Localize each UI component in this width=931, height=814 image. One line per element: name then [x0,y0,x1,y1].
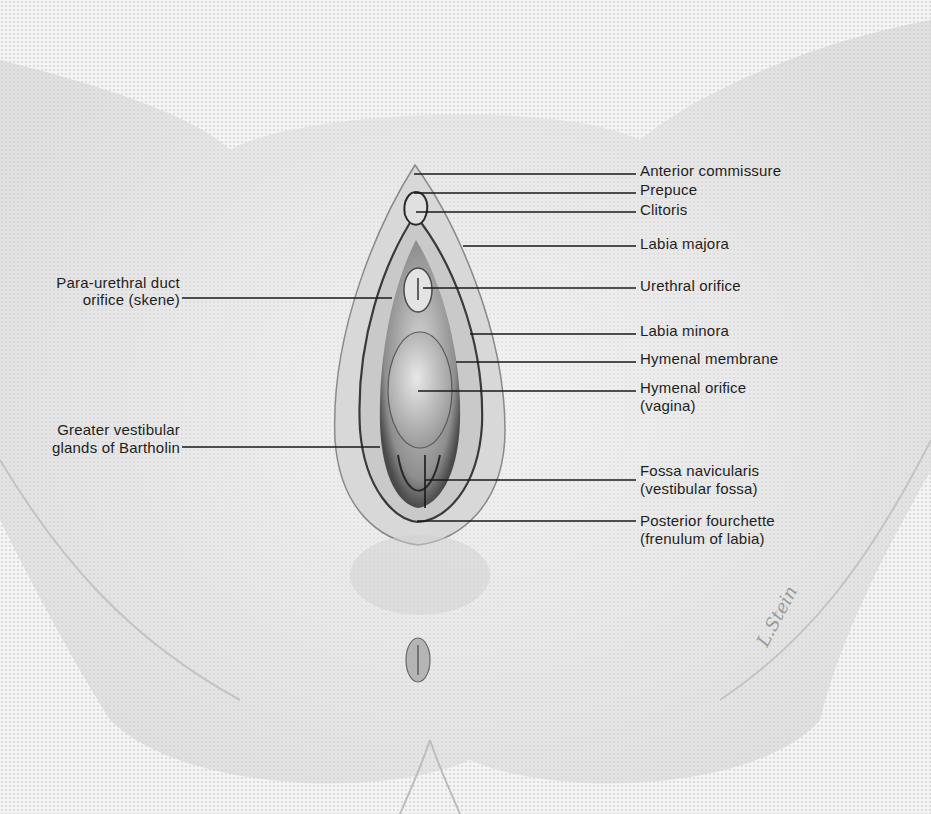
vulva-illustration [0,0,931,814]
hymenal-orifice-shape [388,332,452,448]
label-anterior-commissure: Anterior commissure [640,162,781,179]
label-labia-majora: Labia majora [640,235,729,252]
label-hymenal-membrane: Hymenal membrane [640,350,778,367]
label-fossa-navicularis: Fossa navicularis [640,462,759,479]
diagram-canvas: Anterior commissure Prepuce Clitoris Lab… [0,0,931,814]
label-posterior-fourchette-sub: (frenulum of labia) [640,530,765,547]
label-posterior-fourchette: Posterior fourchette [640,512,775,529]
label-prepuce: Prepuce [640,181,697,198]
label-para-urethral-duct: Para-urethral duct [56,274,180,291]
label-hymenal-orifice: Hymenal orifice [640,379,746,396]
label-para-urethral-duct-sub: orifice (skene) [83,291,180,308]
label-bartholin-glands-sub: glands of Bartholin [52,439,180,456]
clitoris-shape [404,192,427,225]
label-bartholin-glands: Greater vestibular [57,421,180,438]
label-hymenal-orifice-sub: (vagina) [640,397,696,414]
label-clitoris: Clitoris [640,201,687,218]
label-urethral-orifice: Urethral orifice [640,277,741,294]
label-labia-minora: Labia minora [640,322,729,339]
label-fossa-navicularis-sub: (vestibular fossa) [640,480,758,497]
